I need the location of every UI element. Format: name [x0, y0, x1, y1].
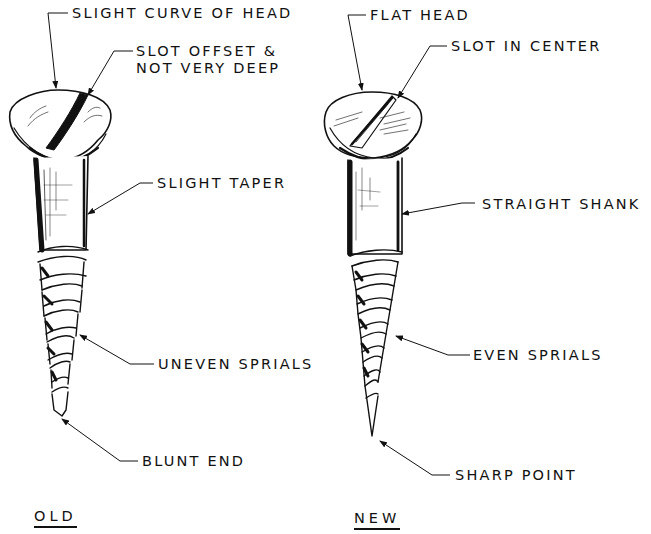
old-screw-threads [38, 246, 88, 416]
label-new-shank: STRAIGHT SHANK [482, 196, 641, 213]
label-old-slot-line2: NOT VERY DEEP [136, 60, 280, 77]
leader-new-head [348, 15, 366, 90]
caption-old: OLD [34, 508, 77, 528]
label-new-head: FLAT HEAD [370, 7, 470, 24]
diagram-canvas [0, 0, 651, 534]
old-screw-head [10, 90, 111, 162]
new-screw-head [324, 92, 421, 160]
old-screw-illustration [10, 90, 111, 416]
leader-new-slot [398, 46, 447, 98]
leader-new-threads [396, 336, 470, 355]
new-screw-shank [348, 158, 402, 254]
leader-old-shank [88, 183, 153, 214]
leader-old-threads [80, 335, 154, 364]
new-screw-threads [350, 250, 402, 436]
label-new-threads: EVEN SPRIALS [473, 347, 603, 364]
label-new-slot: SLOT IN CENTER [451, 38, 601, 55]
leader-new-shank [402, 203, 475, 214]
label-new-tip: SHARP POINT [455, 467, 577, 484]
old-screw-shank [34, 156, 88, 250]
label-old-slot-line1: SLOT OFFSET & [136, 43, 277, 60]
label-old-head: SLIGHT CURVE OF HEAD [72, 5, 292, 22]
new-screw-illustration [324, 92, 421, 436]
leader-old-tip [62, 419, 138, 461]
label-old-shank: SLIGHT TAPER [157, 175, 286, 192]
leader-old-head [48, 13, 68, 88]
caption-new: NEW [354, 510, 400, 530]
leader-new-tip [380, 441, 450, 475]
label-old-tip: BLUNT END [142, 453, 245, 470]
leader-old-slot [88, 51, 133, 95]
label-old-threads: UNEVEN SPRIALS [158, 356, 313, 373]
